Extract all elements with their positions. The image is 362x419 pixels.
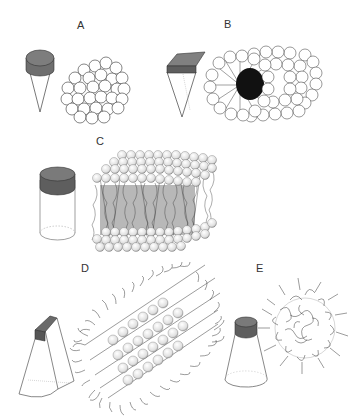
wedge-shape-d (19, 316, 74, 397)
truncated-cone-shape-e (225, 317, 267, 387)
spherical-micelle-a (61, 57, 130, 124)
inverted-hexagonal-d (70, 262, 224, 415)
wedge-shape-b (167, 52, 205, 117)
cylindrical-micelle-b (204, 46, 322, 122)
bilayer-c (92, 151, 217, 252)
cylinder-shape-c (40, 167, 75, 240)
cone-shape-a (26, 50, 54, 112)
inverted-micelle-e (258, 278, 348, 374)
diagram-canvas (0, 0, 362, 419)
